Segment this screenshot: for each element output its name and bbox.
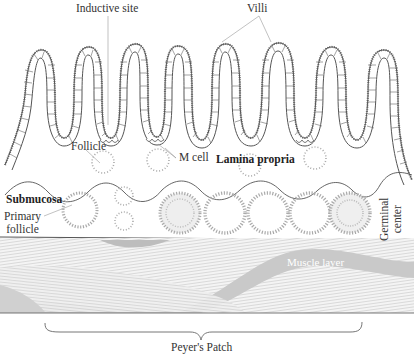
label-lamina-propria: Lamina propria	[216, 154, 295, 166]
label-germinal-center-line1: Germinal	[378, 198, 391, 241]
label-muscle-layer: Muscle layer	[287, 257, 344, 268]
peyers-patch-brace	[45, 322, 362, 340]
peyers-patch-diagram: Inductive site Villi Follicle M cell Lam…	[0, 0, 414, 355]
label-germinal-center: Germinal center	[378, 198, 403, 241]
label-inductive-site: Inductive site	[76, 3, 138, 15]
muscle-layer	[0, 237, 414, 313]
submucosa-follicles	[63, 187, 370, 233]
villi-epithelium	[5, 43, 412, 185]
label-germinal-center-line2: center	[391, 198, 404, 241]
label-primary-follicle-line2: follicle	[4, 223, 41, 236]
label-follicle: Follicle	[71, 141, 106, 153]
label-peyers-patch: Peyer's Patch	[171, 342, 232, 354]
label-villi: Villi	[247, 3, 267, 15]
label-primary-follicle: Primary follicle	[4, 210, 41, 236]
m-cell-notches	[100, 139, 314, 143]
label-primary-follicle-line1: Primary	[4, 210, 41, 223]
label-m-cell: M cell	[179, 152, 209, 164]
leader-lines	[44, 16, 370, 220]
diagram-svg	[0, 0, 414, 355]
label-submucosa: Submucosa	[6, 194, 62, 206]
